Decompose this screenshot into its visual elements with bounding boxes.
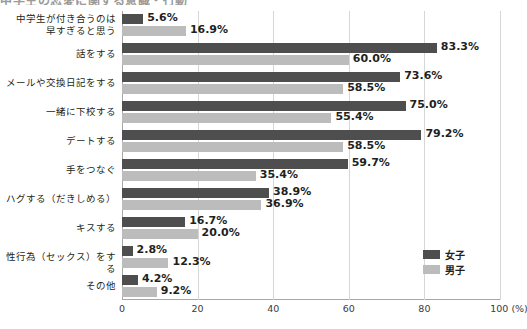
x-axis-tick: 0	[119, 303, 125, 314]
bar-row: 73.6%58.5%	[122, 69, 500, 98]
bar-value-label: 2.8%	[137, 245, 168, 255]
bar-male	[122, 84, 343, 94]
bar-row: 59.7%35.4%	[122, 156, 500, 185]
legend-swatch-male	[423, 265, 440, 274]
bar-male	[122, 229, 198, 239]
bar-female	[122, 275, 138, 285]
x-axis: 020406080100 (%)	[122, 303, 527, 323]
bar-chart: 中学生の恋愛に関する意識・行動 中学生が付き合うのは 早すぎると思う話をするメー…	[0, 0, 527, 329]
legend-label: 男子	[445, 262, 465, 277]
bar-value-label: 9.2%	[161, 286, 192, 296]
bar-value-label: 36.9%	[265, 199, 303, 209]
category-label: デートする	[0, 135, 116, 147]
bar-female	[122, 246, 133, 256]
bar-value-label: 12.3%	[172, 257, 210, 267]
x-axis-tick: 40	[267, 303, 279, 314]
bar-value-label: 20.0%	[202, 228, 240, 238]
bar-value-label: 79.2%	[425, 129, 463, 139]
category-label: 手をつなぐ	[0, 164, 116, 176]
bar-male	[122, 258, 168, 268]
bar-male	[122, 55, 349, 65]
bar-female	[122, 188, 269, 198]
bar-value-label: 4.2%	[142, 274, 173, 284]
bar-row: 5.6%16.9%	[122, 11, 500, 40]
bar-value-label: 73.6%	[404, 71, 442, 81]
category-label: 中学生が付き合うのは 早すぎると思う	[0, 13, 116, 37]
legend-item-male: 男子	[423, 263, 503, 276]
bar-row: 16.7%20.0%	[122, 213, 500, 242]
x-axis-tick: 100 (%)	[490, 303, 527, 314]
bar-value-label: 58.5%	[347, 83, 385, 93]
bar-female	[122, 14, 143, 24]
category-label: その他	[0, 280, 116, 292]
legend: 女子男子	[423, 248, 503, 278]
bar-row: 79.2%58.5%	[122, 127, 500, 156]
bar-value-label: 35.4%	[260, 170, 298, 180]
category-label: 一緒に下校する	[0, 106, 116, 118]
bar-value-label: 59.7%	[352, 158, 390, 168]
bar-female	[122, 217, 185, 227]
bar-male	[122, 200, 261, 210]
bar-value-label: 83.3%	[441, 42, 479, 52]
x-axis-tick: 60	[343, 303, 355, 314]
category-label-axis: 中学生が付き合うのは 早すぎると思う話をするメールや交換日記をする一緒に下校する…	[0, 11, 116, 300]
category-label: ハグする（だきしめる）	[0, 193, 116, 205]
bar-value-label: 5.6%	[147, 13, 178, 23]
category-label: キスする	[0, 222, 116, 234]
bar-value-label: 16.7%	[189, 216, 227, 226]
x-axis-tick: 80	[418, 303, 430, 314]
bar-female	[122, 159, 348, 169]
bar-value-label: 55.4%	[335, 112, 373, 122]
bar-male	[122, 113, 331, 123]
category-label: 性行為（セックス）をする	[0, 251, 116, 275]
category-label: メールや交換日記をする	[0, 77, 116, 89]
legend-label: 女子	[445, 247, 465, 262]
legend-swatch-female	[423, 250, 440, 259]
bar-male	[122, 171, 256, 181]
chart-title-clipped: 中学生の恋愛に関する意識・行動	[0, 0, 340, 5]
bar-row: 75.0%55.4%	[122, 98, 500, 127]
x-axis-tick: 20	[192, 303, 204, 314]
bar-value-label: 38.9%	[273, 187, 311, 197]
bar-value-label: 60.0%	[353, 54, 391, 64]
bar-male	[122, 287, 157, 297]
bar-row: 38.9%36.9%	[122, 184, 500, 213]
bar-row: 83.3%60.0%	[122, 40, 500, 69]
bar-value-label: 16.9%	[190, 25, 228, 35]
bar-male	[122, 26, 186, 36]
legend-item-female: 女子	[423, 248, 503, 261]
bar-male	[122, 142, 343, 152]
category-label: 話をする	[0, 48, 116, 60]
bar-value-label: 58.5%	[347, 141, 385, 151]
bar-value-label: 75.0%	[410, 100, 448, 110]
